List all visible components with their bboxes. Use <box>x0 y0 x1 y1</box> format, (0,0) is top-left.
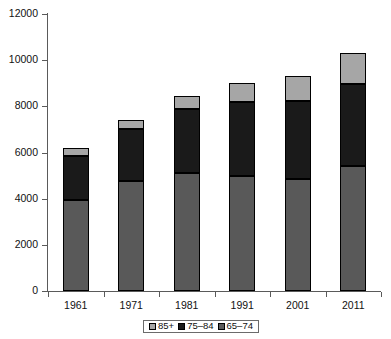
bar-1971 <box>118 14 144 291</box>
bar-segment-75-84 <box>340 84 366 166</box>
bar-segment-75-84 <box>285 101 311 179</box>
y-axis-tick-label: 6000 <box>0 147 38 158</box>
bar-segment-85plus <box>340 53 366 84</box>
legend-entry-1: 75–84 <box>178 321 213 331</box>
x-axis-tick-label: 1961 <box>46 299 106 311</box>
x-axis-tick-label: 1981 <box>157 299 217 311</box>
bar-segment-75-84 <box>174 109 200 174</box>
x-axis-tick-label: 1971 <box>101 299 161 311</box>
bar-segment-65-74 <box>229 176 255 291</box>
stacked-bar-chart: 020004000600080001000012000 196119711981… <box>0 0 391 339</box>
legend-label: 65–74 <box>227 321 253 331</box>
y-axis-tick-label: 8000 <box>0 100 38 111</box>
legend-swatch-icon <box>149 323 156 330</box>
x-axis-tick-label: 2001 <box>268 299 328 311</box>
bar-segment-85plus <box>229 83 255 101</box>
bar-2001 <box>285 14 311 291</box>
bar-1991 <box>229 14 255 291</box>
bar-segment-65-74 <box>285 179 311 291</box>
x-axis-tick <box>326 292 327 297</box>
x-axis-tick <box>270 292 271 297</box>
x-axis-tick <box>104 292 105 297</box>
bar-segment-65-74 <box>118 181 144 291</box>
bar-segment-65-74 <box>63 200 89 291</box>
bar-segment-75-84 <box>63 156 89 200</box>
legend-label: 75–84 <box>187 321 213 331</box>
x-axis-tick-label: 1991 <box>212 299 272 311</box>
y-axis-tick-label: 4000 <box>0 193 38 204</box>
chart-legend: 85+75–8465–74 <box>143 320 259 333</box>
y-axis-tick-label: 2000 <box>0 239 38 250</box>
x-axis-tick-label: 2011 <box>323 299 383 311</box>
bar-segment-65-74 <box>340 166 366 291</box>
bar-1981 <box>174 14 200 291</box>
x-axis-tick <box>159 292 160 297</box>
bar-segment-85plus <box>118 120 144 129</box>
y-axis-tick-label: 12000 <box>0 8 38 19</box>
x-axis-tick <box>48 292 49 297</box>
bar-1961 <box>63 14 89 291</box>
x-axis-tick <box>215 292 216 297</box>
bar-segment-85plus <box>174 96 200 109</box>
bar-segment-85plus <box>285 76 311 100</box>
x-axis-tick <box>381 292 382 297</box>
legend-entry-2: 65–74 <box>218 321 253 331</box>
y-axis-tick-label: 0 <box>0 285 38 296</box>
legend-swatch-icon <box>218 323 225 330</box>
plot-area <box>48 14 381 291</box>
legend-label: 85+ <box>158 321 174 331</box>
legend-entry-0: 85+ <box>149 321 174 331</box>
legend-swatch-icon <box>178 323 185 330</box>
y-axis-tick-label: 10000 <box>0 54 38 65</box>
bar-segment-65-74 <box>174 173 200 291</box>
bar-segment-75-84 <box>229 102 255 176</box>
bar-segment-75-84 <box>118 129 144 181</box>
bar-2011 <box>340 14 366 291</box>
bar-segment-85plus <box>63 148 89 156</box>
